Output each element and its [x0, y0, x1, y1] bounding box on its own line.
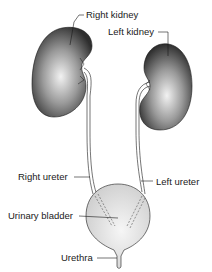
label-left-kidney: Left kidney [108, 26, 154, 37]
label-right-ureter: Right ureter [18, 171, 68, 182]
label-right-kidney: Right kidney [86, 9, 138, 20]
urinary-system-diagram [0, 0, 212, 272]
urinary-bladder [86, 184, 150, 268]
label-urinary-bladder: Urinary bladder [8, 210, 73, 221]
right-kidney [32, 27, 92, 117]
label-left-ureter: Left ureter [156, 176, 199, 187]
label-urethra: Urethra [61, 252, 93, 263]
